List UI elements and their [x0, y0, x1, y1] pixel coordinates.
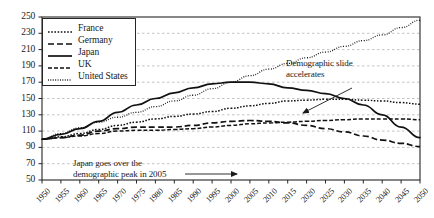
annotation-demographic-slide: Demographic slide accelerates	[286, 58, 353, 80]
y-tick-label: 150	[9, 93, 35, 103]
chart-legend: France Germany Japan UK United States	[42, 18, 136, 86]
legend-swatch-uk	[47, 59, 73, 69]
y-tick-label: 230	[9, 27, 35, 37]
legend-label-united-states: United States	[78, 71, 128, 82]
line-chart: 507090110130150170190210230250 195019551…	[0, 0, 434, 218]
legend-label-germany: Germany	[78, 35, 113, 46]
annotation-japan-peak-line1: Japan goes over the	[73, 158, 166, 169]
legend-label-uk: UK	[78, 59, 92, 70]
y-tick-label: 130	[9, 109, 35, 119]
y-tick-label: 110	[9, 125, 35, 135]
y-tick-label: 90	[9, 141, 35, 151]
annotation-demographic-slide-line1: Demographic slide	[286, 58, 353, 69]
annotation-japan-peak-line2: demographic peak in 2005	[73, 169, 166, 180]
legend-item-united-states[interactable]: United States	[47, 70, 131, 82]
y-tick-label: 250	[9, 11, 35, 21]
y-tick-label: 70	[9, 158, 35, 168]
legend-item-germany[interactable]: Germany	[47, 34, 131, 46]
annotation-demographic-slide-line2: accelerates	[286, 69, 353, 80]
annotation-japan-peak: Japan goes over the demographic peak in …	[73, 158, 166, 180]
legend-swatch-france	[47, 23, 73, 33]
legend-label-japan: Japan	[78, 47, 99, 58]
legend-swatch-united-states	[47, 71, 73, 81]
y-tick-label: 170	[9, 76, 35, 86]
legend-swatch-japan	[47, 47, 73, 57]
legend-item-uk[interactable]: UK	[47, 58, 131, 70]
legend-swatch-germany	[47, 35, 73, 45]
x-tick-marks	[42, 180, 420, 184]
y-tick-label: 210	[9, 44, 35, 54]
legend-label-france: France	[78, 23, 103, 34]
y-tick-label: 50	[9, 174, 35, 184]
legend-item-japan[interactable]: Japan	[47, 46, 131, 58]
legend-item-france[interactable]: France	[47, 22, 131, 34]
y-tick-label: 190	[9, 60, 35, 70]
